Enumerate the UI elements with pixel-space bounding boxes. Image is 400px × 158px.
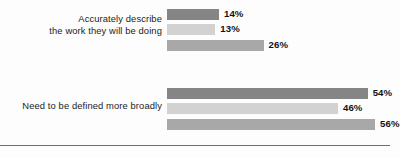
bar-row: 46% <box>167 103 390 114</box>
bar-row: 13% <box>167 24 390 35</box>
bar-g1-s2 <box>167 119 375 130</box>
bar-row: 14% <box>167 9 390 20</box>
category-label-1-line-0: Need to be defined more broadly <box>12 100 162 112</box>
category-label-0-line-0: Accurately describe <box>12 13 162 25</box>
bar-row: 26% <box>167 40 390 51</box>
bar-g1-s0 <box>167 88 368 99</box>
bar-g0-s0 <box>167 9 219 20</box>
bar-g0-s2 <box>167 40 264 51</box>
bar-value-g0-s1: 13% <box>220 23 240 34</box>
category-label-0: Accurately describe the work they will b… <box>12 13 162 36</box>
bar-row: 56% <box>167 119 390 130</box>
bar-value-g0-s2: 26% <box>269 39 289 50</box>
category-label-1: Need to be defined more broadly <box>12 100 162 112</box>
bar-value-g1-s1: 46% <box>343 102 363 113</box>
bar-g1-s1 <box>167 103 338 114</box>
bar-value-g1-s0: 54% <box>373 87 393 98</box>
bar-g0-s1 <box>167 24 215 35</box>
category-label-0-line-1: the work they will be doing <box>12 25 162 37</box>
bar-value-g1-s2: 56% <box>380 118 400 129</box>
bar-value-g0-s0: 14% <box>224 8 244 19</box>
baseline-rule <box>0 145 390 146</box>
bar-row: 54% <box>167 88 390 99</box>
